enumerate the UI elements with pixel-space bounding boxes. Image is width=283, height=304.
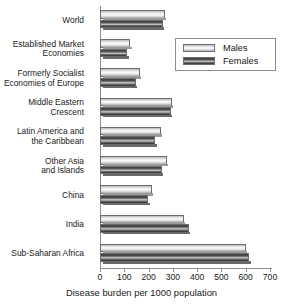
bar-females (100, 78, 136, 87)
bar-males (100, 98, 172, 107)
bar-females (100, 166, 162, 175)
bar-group: Other Asia and Islands (100, 152, 270, 181)
bar-males (100, 156, 167, 165)
bar-females (100, 224, 189, 233)
category-label: World (0, 16, 84, 26)
legend-item-males: Males (183, 44, 275, 53)
bar-group: Middle Eastern Crescent (100, 94, 270, 123)
bar-group: India (100, 211, 270, 240)
category-label: Other Asia and Islands (0, 157, 84, 176)
bar-females (100, 20, 163, 29)
legend-label-males: Males (223, 43, 248, 53)
bar-group: Sub-Saharan Africa (100, 240, 270, 269)
legend-swatch-females-icon (183, 57, 215, 66)
bar-males (100, 39, 130, 48)
category-label: India (0, 220, 84, 230)
bar-females (100, 49, 127, 58)
bar-group: China (100, 181, 270, 210)
category-label: Established Market Economies (0, 40, 84, 59)
bar-males (100, 127, 161, 136)
legend-item-females: Females (183, 57, 275, 66)
bar-females (100, 253, 249, 262)
disease-burden-bar-chart: WorldEstablished Market EconomiesFormerl… (0, 0, 283, 304)
bar-group: Latin America and the Caribbean (100, 123, 270, 152)
category-label: China (0, 191, 84, 201)
legend-swatch-males-icon (183, 44, 215, 53)
bar-group: World (100, 6, 270, 35)
category-label: Formerly Socialist Economies of Europe (0, 69, 84, 88)
bar-females (100, 195, 148, 204)
bar-males (100, 10, 165, 19)
bar-females (100, 136, 155, 145)
category-label: Latin America and the Caribbean (0, 127, 84, 146)
legend-label-females: Females (223, 56, 258, 66)
legend: Males Females (175, 38, 276, 71)
bar-males (100, 185, 152, 194)
bar-females (100, 107, 171, 116)
bar-males (100, 68, 140, 77)
bar-males (100, 215, 184, 224)
x-tick-label: 700 (255, 272, 283, 283)
category-label: Sub-Saharan Africa (0, 249, 84, 259)
category-label: Middle Eastern Crescent (0, 98, 84, 117)
bar-males (100, 244, 246, 253)
x-axis-title: Disease burden per 1000 population (0, 287, 283, 298)
